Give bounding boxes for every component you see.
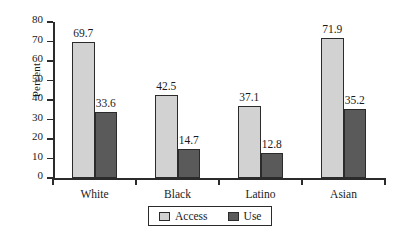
y-axis-tick-label: 50 xyxy=(21,72,43,84)
y-axis-tick: 40 xyxy=(47,99,53,100)
y-axis-tick: 80 xyxy=(47,21,53,22)
bar-white-use xyxy=(95,112,118,178)
y-axis-tick-label: 60 xyxy=(21,52,43,64)
y-axis-tick: 60 xyxy=(47,60,53,61)
bar-latino-use xyxy=(261,153,284,178)
y-axis-line xyxy=(53,22,55,178)
bar-value-label: 33.6 xyxy=(84,97,128,109)
legend-swatch-access-icon xyxy=(159,212,170,221)
x-axis-category-label: Black xyxy=(133,188,223,200)
y-axis-tick-label: 70 xyxy=(21,33,43,45)
bar-white-access xyxy=(72,42,95,178)
y-axis-tick-label: 20 xyxy=(21,130,43,142)
x-axis-category-label: Asian xyxy=(299,188,389,200)
legend-entry-use: Use xyxy=(228,210,262,222)
legend-label-access: Access xyxy=(175,210,208,222)
x-axis-tick xyxy=(52,178,53,185)
y-axis-tick-label: 10 xyxy=(21,150,43,162)
x-axis-tick xyxy=(218,178,219,185)
y-axis-tick: 70 xyxy=(47,41,53,42)
bar-black-use xyxy=(178,149,201,178)
legend-swatch-use-icon xyxy=(228,212,239,221)
y-axis-tick: 20 xyxy=(47,138,53,139)
y-axis-tick: 50 xyxy=(47,80,53,81)
x-axis-tick xyxy=(301,178,302,185)
y-axis-tick-label: 40 xyxy=(21,91,43,103)
x-axis-category-label: Latino xyxy=(216,188,306,200)
legend-label-use: Use xyxy=(244,210,262,222)
legend-entry-access: Access xyxy=(159,210,208,222)
bar-value-label: 12.8 xyxy=(250,138,294,150)
bar-value-label: 71.9 xyxy=(310,23,354,35)
plot-area: 0102030405060708069.733.6White42.514.7Bl… xyxy=(53,22,385,178)
bar-asian-use xyxy=(344,109,367,178)
y-axis-tick-label: 30 xyxy=(21,111,43,123)
chart-legend: Access Use xyxy=(148,206,272,226)
y-axis-tick: 10 xyxy=(47,158,53,159)
bar-asian-access xyxy=(321,38,344,178)
y-axis-tick-label: 80 xyxy=(21,13,43,25)
x-axis-tick xyxy=(384,178,385,185)
bar-value-label: 35.2 xyxy=(333,94,377,106)
bar-value-label: 69.7 xyxy=(61,27,105,39)
x-axis-category-label: White xyxy=(50,188,140,200)
bar-value-label: 42.5 xyxy=(144,80,188,92)
bar-chart: Percent 0102030405060708069.733.6White42… xyxy=(0,0,410,238)
y-axis-tick-label: 0 xyxy=(21,169,43,181)
bar-value-label: 37.1 xyxy=(227,91,271,103)
y-axis-tick: 30 xyxy=(47,119,53,120)
x-axis-tick xyxy=(135,178,136,185)
bar-value-label: 14.7 xyxy=(167,134,211,146)
